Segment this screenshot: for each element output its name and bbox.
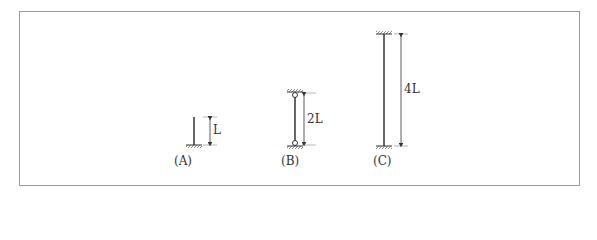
length-label-b: 2L <box>307 112 323 126</box>
length-label-c: 4L <box>404 82 420 96</box>
caption-b: (B) <box>281 154 299 168</box>
caption-a: (A) <box>174 154 192 168</box>
length-label-a: L <box>213 123 221 137</box>
caption-c: (C) <box>373 154 392 168</box>
